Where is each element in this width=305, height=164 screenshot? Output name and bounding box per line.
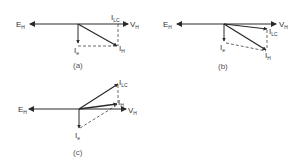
diagram-c: EH VH ILC IH Ie (c) (18, 78, 137, 157)
label-vh: VH (279, 20, 288, 30)
label-ilc: ILC (119, 78, 128, 88)
diagram-a: EH VH ILC IH Ie (a) (16, 13, 139, 70)
label-ilc: ILC (269, 27, 278, 37)
label-ih: IH (265, 51, 271, 61)
label-ie: Ie (220, 43, 225, 53)
label-eh: EH (163, 20, 172, 30)
phasor-diagrams: EH VH ILC IH Ie (a) EH VH ILC IH Ie (b) … (0, 0, 305, 164)
caption-a: (a) (73, 61, 83, 70)
diagram-svg: EH VH ILC IH Ie (a) EH VH ILC IH Ie (b) … (0, 0, 305, 164)
caption-b: (b) (218, 62, 228, 71)
diagram-b: EH VH ILC IH Ie (b) (163, 20, 288, 71)
caption-c: (c) (73, 148, 83, 157)
label-ilc: ILC (111, 13, 120, 23)
label-ie: Ie (75, 131, 80, 141)
label-ie: Ie (74, 46, 79, 56)
label-vh: VH (128, 106, 137, 116)
label-eh: EH (16, 20, 25, 30)
label-vh: VH (130, 20, 139, 30)
label-eh: EH (18, 105, 27, 115)
label-ih: IH (119, 44, 125, 54)
label-ih: IH (118, 98, 124, 108)
phasor-ih (78, 24, 117, 46)
